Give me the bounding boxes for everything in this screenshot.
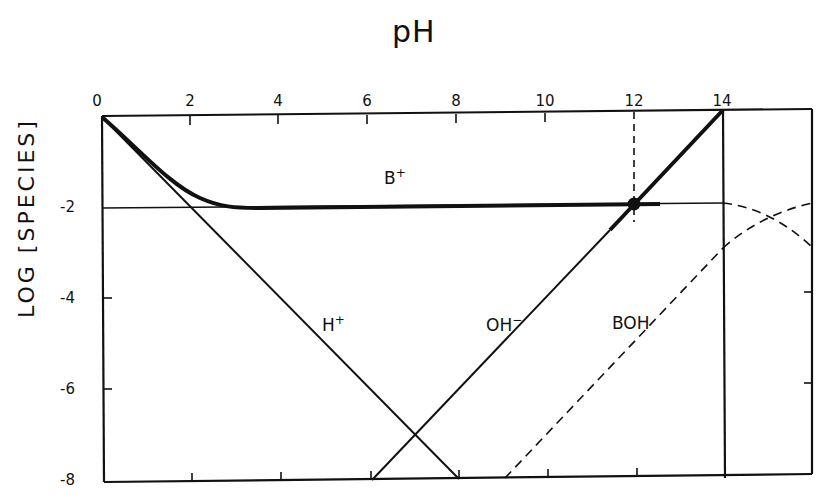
b-plus-extension (723, 203, 812, 247)
b-plus-curve (102, 117, 660, 208)
oh-minus-label: OH− (486, 313, 522, 335)
plot-area (0, 0, 832, 503)
oh-minus-line (372, 230, 610, 480)
h-plus-label: H+ (322, 313, 345, 335)
pka-point (628, 198, 641, 211)
boh-label: BOH (612, 313, 650, 333)
chart: pH LOG [SPECIES] 0 2 4 6 8 10 12 14 -2 -… (0, 0, 832, 503)
b-plus-label: B+ (384, 166, 406, 188)
boh-extension (723, 203, 812, 248)
oh-minus-line-thick (610, 110, 723, 230)
boh-line (505, 248, 723, 478)
